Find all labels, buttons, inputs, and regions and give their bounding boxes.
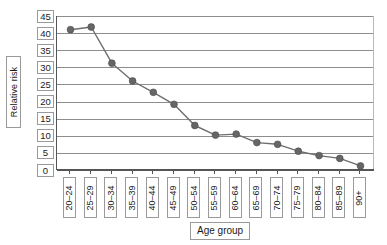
x-axis-tick-label: 75–79 (291, 177, 304, 218)
x-axis-tick-label-text: 55–59 (209, 185, 219, 210)
data-point (150, 89, 157, 96)
x-axis-tick-label: 45–49 (167, 177, 180, 218)
series-markers (67, 24, 364, 170)
y-axis-tick-label: 0 (37, 164, 54, 177)
x-axis-tick-label: 55–59 (208, 177, 221, 218)
data-point (191, 122, 198, 129)
x-axis-tick-label-text: 20–24 (64, 185, 74, 210)
y-axis-tick-label: 30 (37, 61, 54, 74)
data-point (316, 152, 323, 159)
x-axis-tick-label-text: 60–64 (230, 185, 240, 210)
x-axis-tick-label: 20–24 (63, 177, 76, 218)
y-axis-tick-label: 5 (37, 146, 54, 159)
x-axis-tick-label: 40–44 (146, 177, 159, 218)
y-axis-title-label: Relative risk (9, 67, 19, 117)
x-axis-tick-label-text: 70–74 (272, 185, 282, 210)
plot-area (56, 16, 374, 170)
data-point (254, 139, 261, 146)
x-axis-tick-label-text: 50–54 (189, 185, 199, 210)
y-axis-tick-label: 40 (37, 27, 54, 40)
data-point (109, 60, 116, 67)
x-axis-tick-mark (359, 170, 360, 174)
y-axis-tick-label: 25 (37, 78, 54, 91)
data-point (67, 26, 74, 33)
x-axis-tick-mark (194, 170, 195, 174)
x-axis-title: Age group (190, 222, 250, 240)
x-axis-tick-mark (214, 170, 215, 174)
x-axis-tick-label-text: 30–34 (106, 185, 116, 210)
data-point (171, 101, 178, 108)
y-axis-tick-label: 20 (37, 95, 54, 108)
x-axis-tick-label-text: 45–49 (168, 185, 178, 210)
relative-risk-line-chart: Relative risk 454035302520151050 20–2425… (0, 0, 387, 245)
series-layer (57, 16, 375, 170)
x-axis-tick-label: 90+ (353, 177, 366, 218)
x-axis-tick-label-text: 75–79 (292, 185, 302, 210)
x-axis-tick-label-text: 90+ (354, 190, 364, 205)
x-axis-tick-label-text: 85–89 (334, 185, 344, 210)
x-axis-tick-label-text: 40–44 (147, 185, 157, 210)
gridline (57, 170, 374, 171)
y-axis-tick-labels: 454035302520151050 (32, 0, 54, 245)
x-axis-tick-mark (111, 170, 112, 174)
data-point (88, 24, 95, 31)
x-axis-tick-label-text: 25–29 (85, 185, 95, 210)
x-axis-tick-label-text: 65–69 (251, 185, 261, 210)
x-axis-tick-mark (132, 170, 133, 174)
x-axis-tick-mark (277, 170, 278, 174)
y-axis-title: Relative risk (6, 56, 21, 128)
series-line (71, 27, 361, 166)
x-axis-tick-label: 80–84 (312, 177, 325, 218)
x-axis-tick-label: 25–29 (84, 177, 97, 218)
x-axis-tick-mark (339, 170, 340, 174)
x-axis-tick-label: 85–89 (332, 177, 345, 218)
x-axis-tick-mark (152, 170, 153, 174)
data-point (129, 78, 136, 85)
x-axis-tick-label: 35–39 (125, 177, 138, 218)
x-axis-tick-label-text: 80–84 (313, 185, 323, 210)
x-axis-tick-mark (235, 170, 236, 174)
data-point (212, 132, 219, 139)
x-axis-title-label: Age group (197, 225, 243, 236)
x-axis-tick-label: 65–69 (249, 177, 262, 218)
x-axis-tick-label: 70–74 (270, 177, 283, 218)
x-axis-tick-mark (69, 170, 70, 174)
x-axis-tick-label: 60–64 (229, 177, 242, 218)
data-point (274, 141, 281, 148)
data-point (357, 163, 364, 170)
x-axis-tick-mark (173, 170, 174, 174)
x-axis-tick-mark (297, 170, 298, 174)
y-axis-tick-label: 35 (37, 44, 54, 57)
data-point (233, 131, 240, 138)
y-axis-tick-label: 10 (37, 129, 54, 142)
x-axis-tick-label: 50–54 (187, 177, 200, 218)
data-point (336, 155, 343, 162)
x-axis-tick-mark (256, 170, 257, 174)
data-point (295, 148, 302, 155)
x-axis-tick-label-text: 35–39 (127, 185, 137, 210)
x-axis-tick-mark (90, 170, 91, 174)
x-axis-tick-mark (318, 170, 319, 174)
x-axis-tick-label: 30–34 (104, 177, 117, 218)
y-axis-tick-label: 15 (37, 112, 54, 125)
y-axis-tick-label: 45 (37, 10, 54, 23)
